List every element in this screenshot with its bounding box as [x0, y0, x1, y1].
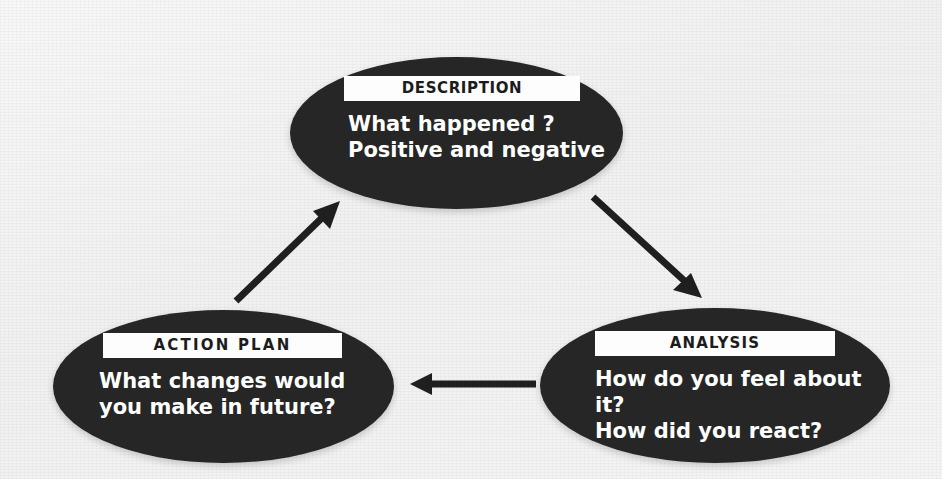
diagram-canvas: DESCRIPTION What happened ? Positive and… — [0, 0, 942, 479]
node-description[interactable]: DESCRIPTION What happened ? Positive and… — [290, 57, 623, 209]
node-action-plan-label: ACTION PLAN — [103, 333, 342, 358]
arrow-down-right-icon-shaft — [593, 197, 690, 286]
node-action-plan[interactable]: ACTION PLAN What changes would you make … — [53, 310, 394, 463]
arrow-analysis-to-action-plan — [410, 373, 536, 395]
arrow-left-icon-head — [410, 373, 432, 395]
node-analysis[interactable]: ANALYSIS How do you feel about it? How d… — [540, 308, 890, 463]
node-description-body: What happened ? Positive and negative — [348, 111, 605, 163]
node-analysis-label: ANALYSIS — [595, 331, 835, 356]
node-description-label: DESCRIPTION — [344, 76, 580, 101]
arrow-up-right-icon-shaft — [236, 213, 327, 301]
node-analysis-body: How do you feel about it? How did you re… — [595, 366, 890, 444]
arrow-action-plan-to-description — [236, 201, 340, 301]
node-action-plan-body: What changes would you make in future? — [99, 368, 345, 420]
arrow-description-to-analysis — [593, 197, 702, 298]
